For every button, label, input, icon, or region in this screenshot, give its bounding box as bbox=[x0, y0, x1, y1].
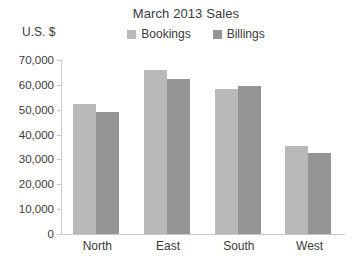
y-tick-mark bbox=[57, 184, 61, 185]
y-tick-mark bbox=[57, 60, 61, 61]
bar-pair bbox=[215, 60, 261, 234]
legend-swatch-icon bbox=[127, 30, 136, 39]
bar-pair bbox=[144, 60, 190, 234]
bar-group: West bbox=[274, 60, 345, 234]
bar-group: South bbox=[204, 60, 275, 234]
bar-south-bookings[interactable] bbox=[215, 89, 238, 234]
y-axis-label: U.S. $ bbox=[22, 25, 55, 39]
y-tick-label: 10,000 bbox=[19, 203, 54, 215]
y-tick-mark bbox=[57, 85, 61, 86]
chart-legend: BookingsBillings bbox=[20, 27, 352, 41]
bar-group: East bbox=[133, 60, 204, 234]
chart-title: March 2013 Sales bbox=[0, 6, 352, 21]
y-tick-mark bbox=[57, 234, 61, 235]
y-tick-label: 40,000 bbox=[19, 129, 54, 141]
bar-north-billings[interactable] bbox=[96, 112, 119, 234]
x-axis-line bbox=[61, 234, 345, 235]
legend-swatch-icon bbox=[213, 30, 222, 39]
y-tick-mark bbox=[57, 135, 61, 136]
bar-groups: NorthEastSouthWest bbox=[62, 60, 345, 234]
x-tick-label: East bbox=[133, 239, 204, 253]
bar-east-bookings[interactable] bbox=[144, 70, 167, 234]
legend-item-bookings[interactable]: Bookings bbox=[127, 27, 190, 41]
y-tick-mark bbox=[57, 209, 61, 210]
bar-north-bookings[interactable] bbox=[73, 104, 96, 235]
legend-item-billings[interactable]: Billings bbox=[213, 27, 265, 41]
y-tick-mark bbox=[57, 110, 61, 111]
x-tick-label: West bbox=[274, 239, 345, 253]
bar-chart: March 2013 Sales BookingsBillings U.S. $… bbox=[0, 0, 352, 270]
y-tick-label: 60,000 bbox=[19, 79, 54, 91]
y-tick-label: 50,000 bbox=[19, 104, 54, 116]
y-tick-label: 0 bbox=[48, 228, 54, 240]
bar-pair bbox=[285, 60, 331, 234]
legend-label: Bookings bbox=[141, 27, 190, 41]
x-tick-label: North bbox=[62, 239, 133, 253]
bar-west-billings[interactable] bbox=[308, 153, 331, 234]
y-tick-label: 70,000 bbox=[19, 54, 54, 66]
y-tick-label: 30,000 bbox=[19, 153, 54, 165]
x-tick-label: South bbox=[204, 239, 275, 253]
bar-west-bookings[interactable] bbox=[285, 146, 308, 234]
bar-south-billings[interactable] bbox=[238, 86, 261, 234]
plot-area: 010,00020,00030,00040,00050,00060,00070,… bbox=[61, 60, 345, 234]
chart-title-text: March 2013 Sales bbox=[133, 6, 239, 21]
bar-group: North bbox=[62, 60, 133, 234]
y-tick-mark bbox=[57, 159, 61, 160]
legend-label: Billings bbox=[227, 27, 265, 41]
y-tick-label: 20,000 bbox=[19, 178, 54, 190]
bar-east-billings[interactable] bbox=[167, 79, 190, 234]
bar-pair bbox=[73, 60, 119, 234]
